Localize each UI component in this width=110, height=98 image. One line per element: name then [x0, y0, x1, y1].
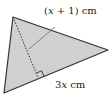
base-label: 3x cm: [55, 79, 86, 90]
height-label: (x + 1) cm: [44, 5, 97, 16]
triangle-diagram: (x + 1) cm 3x cm: [0, 0, 110, 98]
